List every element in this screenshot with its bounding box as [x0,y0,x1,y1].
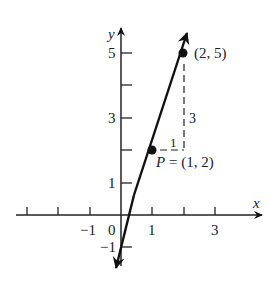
rise-label: 3 [189,111,196,126]
point-label-p: P = (1, 2) [155,154,214,171]
point-2-5 [179,49,188,58]
y-tick-label-5: 5 [108,45,116,61]
y-tick-label-m1: −1 [100,239,116,255]
y-tick-label-3: 3 [108,110,116,126]
graph-line [134,33,187,195]
y-ticks [121,53,132,247]
y-tick-label-1: 1 [108,175,116,191]
point-label-2-5: (2, 5) [194,45,227,62]
run-label: 1 [170,135,177,150]
x-tick-label-0: 0 [108,222,116,238]
point-p-name: P [155,154,165,170]
x-tick-label-m1: −1 [80,222,96,238]
x-axis-label: x [252,195,260,211]
point-p-coords: = (1, 2) [165,154,213,171]
y-axis-label: y [106,26,115,42]
x-tick-label-3: 3 [211,222,219,238]
line-graph: x y −1 0 1 3 5 3 1 −1 (2, 5) P = (1, 2) … [0,0,270,291]
x-tick-label-1: 1 [148,222,156,238]
graph-line-lower [116,195,134,268]
